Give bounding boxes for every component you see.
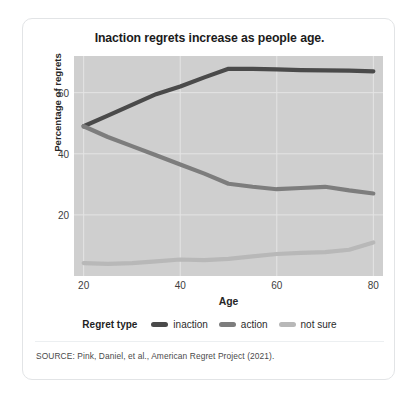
gridlines bbox=[74, 56, 383, 276]
legend-label: inaction bbox=[173, 319, 207, 330]
plot-area bbox=[74, 56, 383, 276]
series-lines bbox=[84, 69, 374, 264]
legend-label: action bbox=[241, 319, 268, 330]
series-line-not-sure bbox=[84, 242, 374, 263]
y-axis-ticks: 204060 bbox=[45, 56, 69, 276]
legend-item-inaction[interactable]: inaction bbox=[151, 319, 207, 330]
legend-swatch-icon bbox=[219, 322, 236, 327]
plot-wrapper bbox=[74, 56, 383, 276]
x-tick-label: 60 bbox=[271, 280, 282, 291]
x-tick-label: 40 bbox=[175, 280, 186, 291]
x-tick-label: 80 bbox=[368, 280, 379, 291]
series-line-action bbox=[84, 126, 374, 193]
legend-item-action[interactable]: action bbox=[219, 319, 268, 330]
y-tick-label: 60 bbox=[47, 87, 69, 98]
legend-swatch-icon bbox=[151, 322, 168, 327]
x-axis-ticks: 20406080 bbox=[74, 280, 383, 294]
legend-swatch-icon bbox=[279, 322, 296, 327]
x-tick-label: 20 bbox=[78, 280, 89, 291]
divider bbox=[35, 341, 384, 342]
x-axis-title: Age bbox=[74, 296, 383, 307]
chart-legend: Regret type inactionactionnot sure bbox=[23, 319, 396, 330]
source-note: SOURCE: Pink, Daniel, et al., American R… bbox=[36, 351, 386, 361]
chart-card: Inaction regrets increase as people age.… bbox=[22, 18, 395, 380]
legend-label: not sure bbox=[301, 319, 337, 330]
series-line-inaction bbox=[84, 69, 374, 126]
page-title: Inaction regrets increase as people age. bbox=[23, 31, 396, 45]
y-tick-label: 40 bbox=[47, 148, 69, 159]
y-tick-label: 20 bbox=[47, 209, 69, 220]
chart-svg bbox=[74, 56, 383, 276]
legend-title: Regret type bbox=[82, 319, 137, 330]
legend-item-not-sure[interactable]: not sure bbox=[279, 319, 337, 330]
